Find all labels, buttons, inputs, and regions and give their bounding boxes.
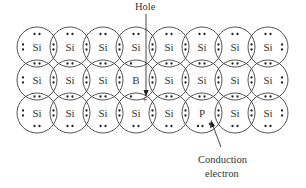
electron-dot <box>118 81 120 83</box>
electron-dot <box>85 48 87 50</box>
atom-labels: SiSiSiSiSiSiSiSiSiSiSiBSiSiSiSiSiSiSiSiS… <box>32 41 272 119</box>
electron-dot <box>104 33 106 35</box>
electron-dot <box>281 81 283 83</box>
electron-dot <box>165 33 167 35</box>
electron-dot <box>250 114 252 116</box>
electron-dot <box>197 125 199 127</box>
electron-dot <box>203 95 205 97</box>
atom-label-si: Si <box>98 74 107 86</box>
electron-dot <box>264 62 266 64</box>
conduction-label-line2: electron <box>205 168 240 179</box>
electron-dot <box>231 33 233 35</box>
conduction-electron-arrow <box>213 126 221 147</box>
atom-label-si: Si <box>98 107 107 119</box>
electron-dot <box>151 81 153 83</box>
electron-dot <box>184 43 186 45</box>
electron-dot <box>52 109 54 111</box>
electron-dot <box>281 76 283 78</box>
electron-dot <box>33 95 35 97</box>
electron-dot <box>165 62 167 64</box>
electron-dot <box>151 114 153 116</box>
electron-dot <box>269 62 271 64</box>
electron-dot <box>104 125 106 127</box>
electron-dot <box>184 81 186 83</box>
electron-dot <box>236 125 238 127</box>
electron-dot <box>231 95 233 97</box>
electron-dot <box>184 48 186 50</box>
electron-dot <box>184 109 186 111</box>
electron-dot <box>22 48 24 50</box>
electron-dot <box>71 62 73 64</box>
electron-dot <box>38 62 40 64</box>
electron-dot <box>217 109 219 111</box>
electron-dot <box>236 95 238 97</box>
electron-dot <box>38 95 40 97</box>
electron-dot <box>217 48 219 50</box>
electron-dot <box>170 33 172 35</box>
electron-dot <box>264 33 266 35</box>
electron-dot <box>217 81 219 83</box>
electron-dot <box>151 48 153 50</box>
electron-dot <box>250 109 252 111</box>
electron-dot <box>198 62 200 64</box>
electron-dot <box>184 114 186 116</box>
electron-dot <box>132 33 134 35</box>
atom-label-si: Si <box>65 74 74 86</box>
conduction-label-line1: Conduction <box>198 154 248 165</box>
electron-dot <box>33 62 35 64</box>
electron-dot <box>66 62 68 64</box>
electron-dot <box>52 114 54 116</box>
electron-dot <box>269 33 271 35</box>
electron-dot <box>250 48 252 50</box>
electron-dot <box>99 33 101 35</box>
atom-label-si: Si <box>32 41 41 53</box>
electron-dot <box>281 109 283 111</box>
atom-label-si: Si <box>131 41 140 53</box>
electron-dot <box>231 62 233 64</box>
atom-label-si: Si <box>164 41 173 53</box>
electron-dot <box>71 125 73 127</box>
atom-label-si: Si <box>32 74 41 86</box>
electron-dot <box>264 95 266 97</box>
electron-dot <box>165 125 167 127</box>
electron-dot <box>85 76 87 78</box>
silicon-lattice-diagram: SiSiSiSiSiSiSiSiSiSiSiBSiSiSiSiSiSiSiSiS… <box>0 0 306 188</box>
electron-dot <box>269 95 271 97</box>
atom-rings <box>17 27 288 133</box>
electron-dot <box>198 33 200 35</box>
atom-label-si: Si <box>164 107 173 119</box>
electron-dot <box>151 43 153 45</box>
electron-dot <box>217 114 219 116</box>
electron-dot <box>118 114 120 116</box>
atom-label-si: Si <box>65 107 74 119</box>
electron-dot <box>250 76 252 78</box>
atom-label-si: Si <box>131 107 140 119</box>
electron-dot <box>99 125 101 127</box>
electron-dot <box>170 125 172 127</box>
electron-dot <box>137 125 139 127</box>
electron-dot <box>203 62 205 64</box>
electron-dot <box>52 48 54 50</box>
atom-label-si: Si <box>32 107 41 119</box>
atom-label-si: Si <box>263 107 272 119</box>
electron-dot <box>52 81 54 83</box>
electron-dot <box>281 114 283 116</box>
atom-label-si: Si <box>197 74 206 86</box>
electron-dot <box>66 33 68 35</box>
electron-dot <box>217 76 219 78</box>
atom-label-p: P <box>199 107 205 119</box>
electron-dot <box>236 62 238 64</box>
electron-dot <box>22 76 24 78</box>
electron-dot <box>118 109 120 111</box>
electron-dot <box>22 81 24 83</box>
atom-label-b: B <box>132 74 139 86</box>
hole-label: Hole <box>135 1 156 12</box>
electron-dot <box>198 95 200 97</box>
electron-dot <box>264 125 266 127</box>
atom-label-si: Si <box>164 74 173 86</box>
electron-dot <box>104 62 106 64</box>
electron-dot <box>151 109 153 111</box>
atom-label-si: Si <box>98 41 107 53</box>
atom-label-si: Si <box>65 41 74 53</box>
atom-label-si: Si <box>230 41 239 53</box>
